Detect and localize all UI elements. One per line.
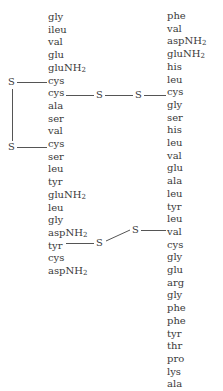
chain-b-residue-30: ala [167,378,182,391]
sulfur-b19: S [132,224,139,236]
bond-line [141,230,166,231]
